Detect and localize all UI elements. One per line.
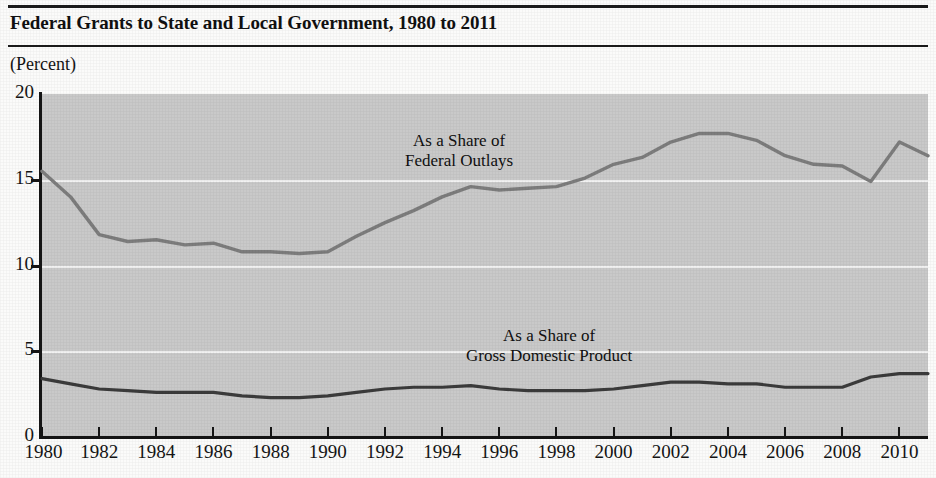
x-tick-mark-1994 bbox=[441, 427, 443, 437]
x-tick-mark-1992 bbox=[384, 427, 386, 437]
x-tick-label-2004: 2004 bbox=[709, 441, 747, 463]
x-tick-mark-2010 bbox=[898, 427, 900, 437]
x-tick-mark-1980 bbox=[41, 427, 43, 437]
x-tick-label-2002: 2002 bbox=[652, 441, 690, 463]
x-tick-label-1998: 1998 bbox=[537, 441, 575, 463]
y-tick-label-20: 20 bbox=[0, 81, 34, 103]
x-tick-label-1984: 1984 bbox=[137, 441, 175, 463]
x-tick-label-1982: 1982 bbox=[80, 441, 118, 463]
x-tick-mark-1996 bbox=[498, 427, 500, 437]
x-tick-mark-2000 bbox=[613, 427, 615, 437]
annotation-gdp-line2: Gross Domestic Product bbox=[466, 346, 632, 366]
x-tick-mark-1998 bbox=[555, 427, 557, 437]
x-axis-line bbox=[39, 436, 928, 439]
x-tick-mark-1982 bbox=[98, 427, 100, 437]
x-tick-label-1992: 1992 bbox=[366, 441, 404, 463]
annotation-federal-outlays-line2: Federal Outlays bbox=[405, 151, 513, 171]
gridline-10 bbox=[42, 266, 928, 268]
x-tick-label-1980: 1980 bbox=[25, 441, 63, 463]
x-tick-label-1988: 1988 bbox=[252, 441, 290, 463]
header-rule-bottom bbox=[8, 45, 928, 47]
y-tick-label-10: 10 bbox=[0, 253, 34, 275]
x-tick-mark-1988 bbox=[270, 427, 272, 437]
annotation-federal-outlays: As a Share of Federal Outlays bbox=[405, 131, 513, 171]
unit-label: (Percent) bbox=[10, 54, 76, 75]
x-tick-mark-2004 bbox=[727, 427, 729, 437]
x-tick-mark-2008 bbox=[841, 427, 843, 437]
x-tick-mark-2002 bbox=[670, 427, 672, 437]
x-tick-label-1986: 1986 bbox=[194, 441, 232, 463]
x-tick-label-1990: 1990 bbox=[309, 441, 347, 463]
x-tick-mark-2006 bbox=[784, 427, 786, 437]
annotation-gdp-line1: As a Share of bbox=[466, 326, 632, 346]
y-tick-label-15: 15 bbox=[0, 167, 34, 189]
x-tick-label-2006: 2006 bbox=[766, 441, 804, 463]
x-tick-mark-1986 bbox=[212, 427, 214, 437]
x-tick-mark-1990 bbox=[327, 427, 329, 437]
figure-title: Federal Grants to State and Local Govern… bbox=[10, 12, 910, 34]
x-tick-label-1994: 1994 bbox=[423, 441, 461, 463]
gridline-15 bbox=[42, 180, 928, 182]
x-tick-mark-1984 bbox=[155, 427, 157, 437]
annotation-gdp: As a Share of Gross Domestic Product bbox=[466, 326, 632, 366]
annotation-federal-outlays-line1: As a Share of bbox=[405, 131, 513, 151]
header-rule-top bbox=[8, 5, 928, 8]
x-tick-label-2008: 2008 bbox=[823, 441, 861, 463]
y-tick-label-5: 5 bbox=[0, 338, 34, 360]
x-tick-label-2010: 2010 bbox=[880, 441, 918, 463]
x-tick-label-1996: 1996 bbox=[480, 441, 518, 463]
figure-container: Federal Grants to State and Local Govern… bbox=[0, 0, 936, 478]
x-tick-label-2000: 2000 bbox=[595, 441, 633, 463]
